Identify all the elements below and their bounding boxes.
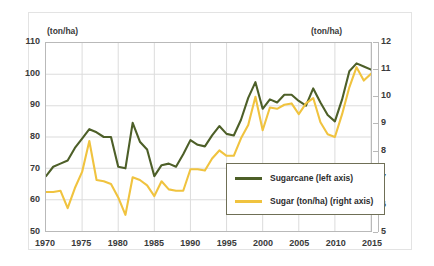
legend-swatch-sugar — [235, 200, 262, 203]
legend-swatch-sugarcane — [235, 177, 262, 180]
x-axis-tick-label: 2005 — [282, 238, 316, 248]
y-axis-tick-label: 70 — [14, 163, 40, 173]
y-axis-tick-label: 50 — [14, 226, 40, 236]
y-axis-tick-label: 110 — [14, 36, 40, 46]
y2-axis-tick-label: 10 — [381, 90, 403, 100]
x-axis-tick-label: 1995 — [210, 238, 244, 248]
x-axis-tick-label: 1990 — [173, 238, 207, 248]
right-axis-unit-label: (ton/ha) — [311, 26, 342, 36]
y-axis-tick-label: 90 — [14, 99, 40, 109]
legend-label-sugar: Sugar (ton/ha) (right axis) — [270, 196, 373, 206]
y2-axis-tick-mark — [373, 232, 378, 233]
chart-figure: (ton/ha) (ton/ha) 5060708090100110 56789… — [0, 0, 434, 266]
legend-label-sugarcane: Sugarcane (left axis) — [270, 173, 353, 183]
y2-axis-tick-label: 11 — [381, 63, 403, 73]
x-axis-tick-label: 1985 — [137, 238, 171, 248]
legend-item-sugarcane: Sugarcane (left axis) — [235, 171, 353, 185]
y-axis-tick-label: 100 — [14, 68, 40, 78]
x-axis-tick-label: 1970 — [28, 238, 62, 248]
legend-item-sugar: Sugar (ton/ha) (right axis) — [235, 194, 373, 208]
chart-legend: Sugarcane (left axis) Sugar (ton/ha) (ri… — [226, 163, 385, 215]
left-axis-unit-label: (ton/ha) — [47, 26, 78, 36]
x-axis-tick-label: 1975 — [64, 238, 98, 248]
y2-axis-tick-label: 9 — [381, 117, 403, 127]
x-axis-tick-label: 1980 — [101, 238, 135, 248]
x-axis-tick-label: 2010 — [319, 238, 353, 248]
y2-axis-tick-label: 8 — [381, 145, 403, 155]
y-axis-tick-label: 80 — [14, 131, 40, 141]
y2-axis-tick-label: 12 — [381, 36, 403, 46]
x-axis-tick-label: 2000 — [246, 238, 280, 248]
x-axis-tick-label: 2015 — [355, 238, 389, 248]
y-axis-tick-label: 60 — [14, 194, 40, 204]
series-line — [46, 63, 371, 176]
y2-axis-tick-label: 5 — [381, 226, 403, 236]
